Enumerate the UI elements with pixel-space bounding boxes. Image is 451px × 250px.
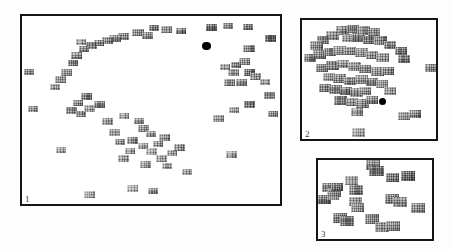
thumbnail-point[interactable] — [386, 173, 399, 182]
thumbnail-point[interactable] — [409, 110, 421, 118]
thumbnail-point[interactable] — [50, 84, 60, 90]
thumbnail-point[interactable] — [359, 65, 371, 73]
panel-3-plot-area: 3 — [318, 160, 432, 239]
thumbnail-point[interactable] — [264, 92, 275, 99]
panel-edge-fade — [22, 16, 280, 204]
thumbnail-point[interactable] — [369, 166, 384, 176]
thumbnail-point[interactable] — [55, 76, 66, 83]
thumbnail-point[interactable] — [24, 69, 34, 75]
thumbnail-point[interactable] — [140, 161, 151, 168]
thumbnail-point[interactable] — [349, 185, 363, 195]
thumbnail-point[interactable] — [81, 93, 92, 100]
panel-2-query-marker[interactable] — [379, 98, 386, 105]
thumbnail-point[interactable] — [146, 131, 156, 137]
thumbnail-point[interactable] — [61, 69, 72, 76]
thumbnail-point[interactable] — [109, 129, 120, 136]
thumbnail-point[interactable] — [224, 79, 235, 86]
thumbnail-point[interactable] — [239, 58, 250, 65]
panel-2-plot-area: 2 — [302, 20, 436, 139]
thumbnail-point[interactable] — [73, 100, 83, 106]
thumbnail-point[interactable] — [310, 41, 323, 50]
thumbnail-point[interactable] — [268, 111, 278, 117]
thumbnail-point[interactable] — [76, 39, 86, 45]
thumbnail-point[interactable] — [223, 23, 233, 29]
thumbnail-point[interactable] — [359, 87, 371, 95]
thumbnail-point[interactable] — [393, 197, 407, 207]
thumbnail-point[interactable] — [176, 28, 186, 34]
thumbnail-point[interactable] — [84, 191, 95, 198]
thumbnail-point[interactable] — [161, 26, 172, 33]
panel-1-plot-area: 1 — [22, 16, 280, 204]
thumbnail-point[interactable] — [244, 101, 255, 108]
thumbnail-point[interactable] — [382, 67, 394, 75]
thumbnail-point[interactable] — [401, 171, 415, 181]
thumbnail-point[interactable] — [386, 221, 400, 231]
thumbnail-point[interactable] — [411, 203, 425, 213]
panel-1-query-marker[interactable] — [202, 42, 210, 50]
panel-1-label: 1 — [25, 194, 30, 204]
thumbnail-point[interactable] — [226, 151, 237, 158]
thumbnail-point[interactable] — [229, 107, 239, 113]
thumbnail-point[interactable] — [398, 55, 410, 63]
thumbnail-point[interactable] — [265, 35, 276, 42]
panel-2-label: 2 — [305, 129, 310, 139]
thumbnail-point[interactable] — [206, 24, 217, 31]
thumbnail-point[interactable] — [260, 79, 270, 85]
thumbnail-point[interactable] — [331, 183, 343, 191]
thumbnail-point[interactable] — [425, 64, 437, 72]
thumbnail-point[interactable] — [351, 108, 363, 116]
thumbnail-point[interactable] — [94, 101, 105, 108]
thumbnail-point[interactable] — [236, 79, 247, 86]
panel-3-label: 3 — [321, 229, 326, 239]
thumbnail-point[interactable] — [182, 169, 192, 175]
thumbnail-point[interactable] — [156, 155, 167, 162]
panel-3[interactable]: 3 — [316, 158, 434, 241]
thumbnail-point[interactable] — [149, 25, 159, 31]
thumbnail-point[interactable] — [119, 113, 129, 119]
panel-2[interactable]: 2 — [300, 18, 438, 141]
thumbnail-point[interactable] — [68, 60, 78, 66]
thumbnail-point[interactable] — [220, 64, 230, 70]
thumbnail-point[interactable] — [351, 203, 364, 212]
thumbnail-point[interactable] — [148, 188, 158, 194]
thumbnail-point[interactable] — [142, 32, 153, 39]
thumbnail-point[interactable] — [352, 128, 365, 137]
thumbnail-point[interactable] — [340, 216, 354, 226]
thumbnail-point[interactable] — [174, 144, 185, 151]
thumbnail-point[interactable] — [327, 192, 339, 200]
thumbnail-point[interactable] — [71, 52, 82, 59]
thumbnail-point[interactable] — [159, 134, 170, 141]
thumbnail-point[interactable] — [56, 147, 66, 153]
thumbnail-point[interactable] — [102, 118, 113, 125]
thumbnail-point[interactable] — [118, 155, 129, 162]
thumbnail-point[interactable] — [368, 28, 380, 36]
thumbnail-point[interactable] — [127, 185, 138, 192]
thumbnail-point[interactable] — [162, 163, 172, 169]
thumbnail-point[interactable] — [134, 118, 144, 124]
thumbnail-point[interactable] — [153, 141, 163, 147]
panel-1[interactable]: 1 — [20, 14, 282, 206]
thumbnail-point[interactable] — [243, 45, 255, 52]
thumbnail-point[interactable] — [213, 115, 224, 122]
thumbnail-point[interactable] — [146, 148, 157, 155]
thumbnail-point[interactable] — [125, 148, 135, 154]
thumbnail-point[interactable] — [28, 106, 38, 112]
thumbnail-point[interactable] — [376, 53, 389, 62]
thumbnail-point[interactable] — [366, 96, 378, 104]
thumbnail-point[interactable] — [243, 24, 253, 30]
image-scatter-figure: 123 — [0, 0, 451, 250]
thumbnail-point[interactable] — [384, 87, 396, 95]
thumbnail-point[interactable] — [395, 47, 407, 55]
thumbnail-point[interactable] — [115, 139, 125, 145]
